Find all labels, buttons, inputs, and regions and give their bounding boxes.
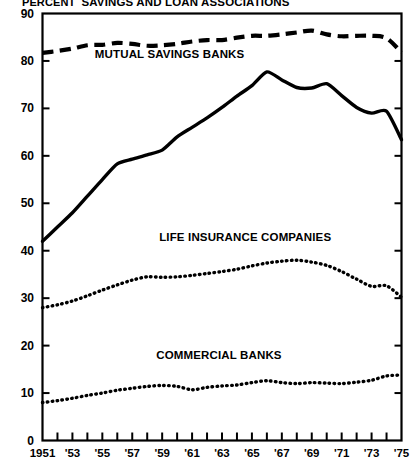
x-tick-label: 1951: [30, 447, 56, 459]
series-line-1: [43, 72, 402, 241]
series-label-1: MUTUAL SAVINGS BANKS: [95, 48, 245, 60]
y-tick-label: 10: [4, 386, 34, 400]
series-label-3: COMMERCIAL BANKS: [156, 349, 282, 361]
x-tick-label: '75: [394, 447, 410, 459]
y-tick-label: 90: [4, 7, 34, 21]
x-tick-label: '67: [274, 447, 290, 459]
y-tick-label: 60: [4, 149, 34, 163]
series-line-3: [43, 375, 402, 403]
y-tick-label: 20: [4, 339, 34, 353]
series-label-2: LIFE INSURANCE COMPANIES: [159, 231, 331, 243]
x-tick-label: '69: [304, 447, 320, 459]
x-tick-label: '57: [124, 447, 140, 459]
y-tick-label: 70: [4, 101, 34, 115]
x-tick-label: '53: [65, 447, 81, 459]
series-label-0: SAVINGS AND LOAN ASSOCIATIONS: [81, 0, 289, 8]
x-tick-label: '61: [184, 447, 200, 459]
x-tick-label: '59: [154, 447, 170, 459]
x-tick-label: '65: [244, 447, 260, 459]
x-tick-label: '63: [214, 447, 230, 459]
chart-container: PERCENT 0102030405060708090 1951'53'55'5…: [0, 0, 415, 469]
y-tick-label: 50: [4, 196, 34, 210]
y-tick-label: 40: [4, 244, 34, 258]
y-tick-label: 0: [4, 434, 34, 448]
series-line-2: [43, 260, 402, 307]
x-tick-label: '73: [364, 447, 380, 459]
x-tick-label: '71: [334, 447, 350, 459]
y-tick-label: 30: [4, 291, 34, 305]
x-tick-label: '55: [95, 447, 111, 459]
y-tick-label: 80: [4, 54, 34, 68]
